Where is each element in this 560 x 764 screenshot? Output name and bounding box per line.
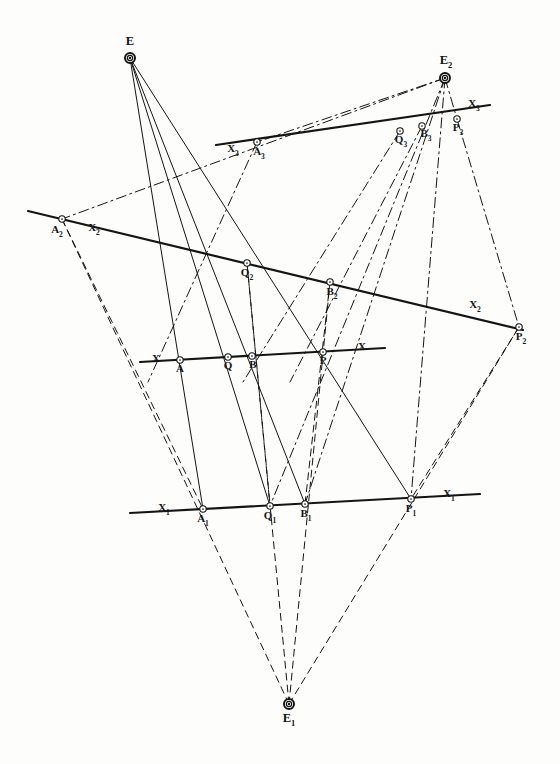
vertex-label-E1: E1 bbox=[283, 711, 296, 728]
connector-B3-down bbox=[290, 126, 422, 382]
point-A2 bbox=[59, 216, 65, 222]
axis-label-left-X2: X2 bbox=[88, 221, 100, 237]
axis-label-left-X1: X1 bbox=[158, 501, 170, 517]
ray-E1-Q2 bbox=[247, 263, 289, 704]
point-label-Q: Q bbox=[224, 359, 233, 371]
ray-E1-B2 bbox=[289, 282, 330, 704]
point-label-A3: A3 bbox=[253, 145, 265, 161]
connector-Q3-down bbox=[243, 131, 400, 382]
point-label-B: B bbox=[249, 358, 257, 370]
ray-E2-Q1 bbox=[270, 78, 445, 506]
point-label-A: A bbox=[176, 362, 184, 374]
connector-layer bbox=[62, 119, 519, 509]
axis-label-left-X3: X3 bbox=[227, 142, 239, 158]
ray-E-B1 bbox=[130, 58, 305, 504]
axis-label-right-X: X bbox=[358, 340, 366, 352]
point-label-B1: B1 bbox=[300, 507, 311, 523]
axis-layer bbox=[28, 105, 523, 513]
axis-label-left-X: X bbox=[152, 352, 160, 364]
vertex-E2 bbox=[440, 73, 450, 83]
point-label-P1: P1 bbox=[406, 502, 417, 518]
pencil-E1 bbox=[62, 219, 519, 704]
vertex-E bbox=[125, 53, 135, 63]
ray-E1-P2 bbox=[289, 327, 519, 704]
geometry-diagram: X3X3X2X2XXX1X1A3Q3B3P3A2Q2B2P2AQBPA1Q1B1… bbox=[0, 0, 560, 764]
point-label-P2: P2 bbox=[516, 330, 527, 346]
ray-E2-P3 bbox=[445, 78, 457, 119]
label-layer: X3X3X2X2XXX1X1A3Q3B3P3A2Q2B2P2AQBPA1Q1B1… bbox=[51, 34, 526, 728]
point-label-Q1: Q1 bbox=[264, 509, 277, 525]
axis-X2 bbox=[28, 211, 523, 330]
point-label-P: P bbox=[320, 354, 327, 366]
connector-P3-P2 bbox=[457, 119, 519, 327]
ray-E2-A3 bbox=[257, 78, 445, 142]
figure-canvas: X3X3X2X2XXX1X1A3Q3B3P3A2Q2B2P2AQBPA1Q1B1… bbox=[0, 0, 560, 764]
point-label-A2: A2 bbox=[51, 223, 63, 239]
vertex-E1 bbox=[284, 699, 294, 709]
ray-E-P1 bbox=[130, 58, 411, 499]
axis-label-right-X1: X1 bbox=[443, 487, 455, 503]
point-label-B3: B3 bbox=[420, 127, 431, 143]
connector-B2-B1 bbox=[305, 282, 330, 504]
point-label-Q2: Q2 bbox=[241, 266, 254, 282]
ray-E1-A2 bbox=[62, 219, 289, 704]
vertex-label-E: E bbox=[126, 34, 134, 48]
axis-label-right-X2: X2 bbox=[469, 298, 481, 314]
point-label-P3: P3 bbox=[453, 121, 464, 137]
vertex-label-E2: E2 bbox=[440, 53, 453, 70]
point-label-A1: A1 bbox=[197, 512, 209, 528]
point-label-Q3: Q3 bbox=[395, 133, 408, 149]
axis-label-right-X3: X3 bbox=[468, 97, 480, 113]
pencil-E bbox=[130, 58, 411, 509]
